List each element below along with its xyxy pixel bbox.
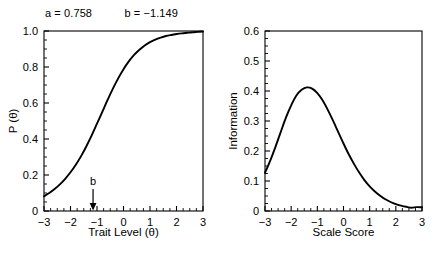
y-tick-label: 0.4	[244, 85, 259, 97]
y-tick-label: 1.0	[23, 25, 38, 37]
info-curve	[265, 87, 422, 207]
y-tick-label: 0.2	[23, 169, 38, 181]
icc-x-axis-label: Trait Level (θ)	[88, 226, 159, 238]
figure-root: a = 0.758 b = −1.149 −3−2−10123 00.20.40…	[0, 0, 446, 262]
info-plot-frame	[265, 31, 422, 211]
x-tick-label: 2	[173, 216, 179, 228]
difficulty-marker-label: b	[90, 175, 96, 187]
y-tick-label: 0.5	[244, 55, 259, 67]
icc-difficulty-marker: b	[90, 175, 97, 211]
info-minor-ticks	[265, 39, 415, 212]
y-tick-label: 0.6	[23, 97, 38, 109]
y-tick-label: 0.6	[244, 25, 259, 37]
y-tick-label: 0.2	[244, 145, 259, 157]
panel-information-function: −3−2−10123 00.10.20.30.40.50.6 Scale Sco…	[223, 0, 446, 262]
icc-plot-svg: −3−2−10123 00.20.40.60.81.0 b Trait Leve…	[0, 0, 223, 262]
x-tick-label: 3	[200, 216, 206, 228]
panel-item-characteristic-curve: a = 0.758 b = −1.149 −3−2−10123 00.20.40…	[0, 0, 223, 262]
y-tick-label: 0.3	[244, 115, 259, 127]
x-tick-label: −2	[64, 216, 77, 228]
x-tick-label: −2	[285, 216, 298, 228]
y-tick-label: 0.4	[23, 133, 38, 145]
y-tick-label: 0.1	[244, 175, 259, 187]
information-plot-svg: −3−2−10123 00.10.20.30.40.50.6 Scale Sco…	[223, 0, 446, 262]
x-tick-label: 2	[393, 216, 399, 228]
info-x-axis-label: Scale Score	[312, 226, 374, 238]
y-tick-label: 0.8	[23, 61, 38, 73]
icc-minor-ticks	[44, 40, 196, 211]
icc-plot-frame	[44, 31, 203, 211]
y-tick-label: 0	[32, 205, 38, 217]
info-y-axis-label: Information	[227, 92, 239, 150]
icc-y-tick-labels: 00.20.40.60.81.0	[23, 25, 38, 217]
y-tick-label: 0	[253, 205, 259, 217]
icc-y-axis-label: P (θ)	[7, 108, 19, 133]
icc-major-ticks	[44, 31, 203, 211]
x-tick-label: −3	[38, 216, 51, 228]
x-tick-label: 3	[419, 216, 425, 228]
icc-curve	[44, 32, 203, 197]
info-y-tick-labels: 00.10.20.30.40.50.6	[244, 25, 259, 217]
x-tick-label: −3	[259, 216, 272, 228]
info-major-ticks	[265, 31, 422, 211]
